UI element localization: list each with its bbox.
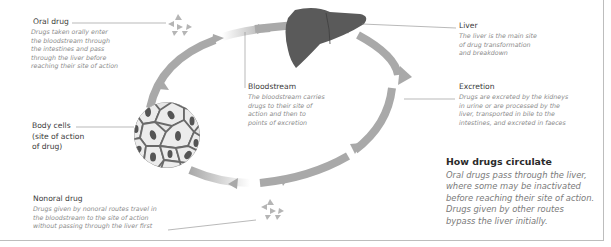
label-line: of drug)	[32, 142, 84, 153]
desc-line: of drug transformation	[459, 41, 537, 50]
oral-drug-description: Drugs taken orally enter the bloodstream…	[31, 28, 118, 71]
desc-line: The liver is the main site	[459, 32, 537, 41]
desc-line: reaching their site of action	[31, 62, 118, 71]
summary-line: bypass the liver initially.	[446, 216, 594, 227]
body-cells-label: Body cells (site of action of drug)	[32, 121, 84, 153]
label-line: Body cells	[32, 121, 84, 132]
desc-line: liver, transported in bile to the	[459, 110, 568, 119]
desc-line: Drugs given by nonoral routes travel in	[33, 205, 157, 214]
body-cells-icon	[128, 100, 204, 172]
desc-line: action and then to	[248, 110, 325, 119]
liver-label: Liver	[459, 21, 478, 30]
summary-line: Drugs given by other routes	[446, 204, 594, 215]
bloodstream-label: Bloodstream	[248, 82, 296, 91]
desc-line: Drugs taken orally enter	[31, 28, 118, 37]
summary-line: Oral drugs pass through the liver,	[446, 170, 594, 181]
desc-line: points of excretion	[248, 119, 325, 128]
desc-line: the bloodstream to the site of action	[33, 214, 157, 223]
liver-description: The liver is the main site of drug trans…	[459, 32, 537, 58]
desc-line: without passing through the liver first	[33, 222, 157, 231]
summary-line: before reaching their site of action.	[446, 193, 594, 204]
pill-particles-icon-nonoral	[261, 199, 284, 220]
label-line: (site of action	[32, 132, 84, 143]
excretion-label: Excretion	[459, 82, 495, 91]
desc-line: the bloodstream through	[31, 37, 118, 46]
summary-line: where some may be inactivated	[446, 181, 594, 192]
desc-line: in urine or are processed by the	[459, 102, 568, 111]
nonoral-drug-description: Drugs given by nonoral routes travel in …	[33, 205, 157, 231]
desc-line: Drugs are excreted by the kidneys	[459, 93, 568, 102]
oral-drug-label: Oral drug	[33, 17, 69, 26]
summary-title: How drugs circulate	[446, 156, 552, 167]
bloodstream-description: The bloodstream carries drugs to their s…	[248, 93, 325, 127]
pill-particles-icon-oral	[168, 14, 192, 36]
desc-line: intestines, and excreted in faeces	[459, 119, 568, 128]
desc-line: The bloodstream carries	[248, 93, 325, 102]
desc-line: the intestines and pass	[31, 45, 118, 54]
desc-line: drugs to their site of	[248, 102, 325, 111]
excretion-description: Drugs are excreted by the kidneys in uri…	[459, 93, 568, 127]
nonoral-drug-label: Nonoral drug	[33, 194, 83, 203]
liver-icon	[286, 8, 367, 68]
desc-line: and breakdown	[459, 49, 537, 58]
desc-line: through the liver before	[31, 54, 118, 63]
summary-text: Oral drugs pass through the liver, where…	[446, 170, 594, 227]
